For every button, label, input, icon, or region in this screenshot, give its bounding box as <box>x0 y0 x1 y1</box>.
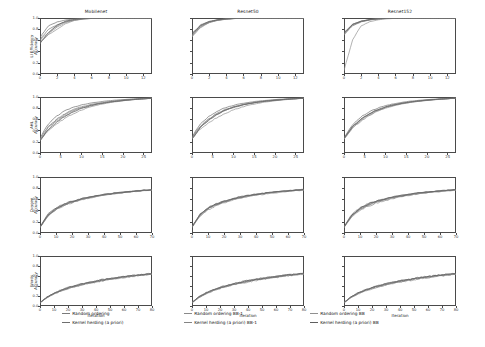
legend-label: Kernel herding (a priori) BB <box>320 320 379 325</box>
x-tick-label: 0 <box>39 308 41 312</box>
x-tick-label: 40 <box>254 235 259 239</box>
x-tick-label: 12 <box>445 76 450 80</box>
series-line <box>344 274 456 303</box>
plot-panel: 01020304050607080Iteration <box>192 256 304 306</box>
x-tick-label: 10 <box>383 155 388 159</box>
x-tick-label: 12 <box>141 76 146 80</box>
y-axis-label: Words Accuracy <box>30 261 39 301</box>
y-tick-label: 1.0 <box>33 95 39 99</box>
figure-legend: Random orderingRandom ordering BB-1Rando… <box>62 311 424 333</box>
series-canvas <box>40 97 152 153</box>
series-line <box>192 18 304 35</box>
x-tick-label: 6 <box>91 76 93 80</box>
x-tick-label: 50 <box>422 235 427 239</box>
y-tick-label: 1.0 <box>33 16 39 20</box>
x-tick-label: 6 <box>243 76 245 80</box>
series-canvas <box>344 18 456 74</box>
x-tick-label: 8 <box>260 76 262 80</box>
x-tick-label: 60 <box>426 308 431 312</box>
plot-panel: 0510152025 <box>192 97 304 153</box>
y-tick-label: 1.0 <box>33 254 39 258</box>
series-canvas <box>344 177 456 233</box>
series-line <box>40 273 152 302</box>
series-canvas <box>344 256 456 306</box>
legend-item[interactable]: Kernel herding (a priori) <box>62 320 123 325</box>
y-axis-label: Oxygen Accuracy <box>30 185 39 225</box>
x-tick-label: 15 <box>252 155 257 159</box>
x-tick-label: 25 <box>141 155 146 159</box>
legend-swatch <box>62 313 70 314</box>
legend-item[interactable]: Kernel herding (a priori) BB <box>310 320 379 325</box>
x-tick-label: 2 <box>208 76 210 80</box>
series-line <box>192 274 304 303</box>
legend-label: Random ordering BB-1 <box>194 311 243 316</box>
x-tick-label: 70 <box>302 235 307 239</box>
x-tick-label: 10 <box>52 308 57 312</box>
series-line <box>344 18 456 33</box>
legend-label: Kernel herding (a priori) <box>72 320 123 325</box>
y-tick-label: 0.0 <box>33 304 39 308</box>
x-tick-label: 4 <box>73 76 75 80</box>
y-axis-label: LI Efficiency Accuracy <box>30 26 39 66</box>
series-line <box>40 274 152 303</box>
x-tick-label: 0 <box>343 155 345 159</box>
y-tick-label: 0.0 <box>33 231 39 235</box>
legend-item[interactable]: Random ordering BB-1 <box>184 311 243 316</box>
series-canvas <box>40 18 152 74</box>
y-tick-label: 0.0 <box>33 151 39 155</box>
x-tick-label: 4 <box>225 76 227 80</box>
panel-title: Resnet152 <box>344 9 456 14</box>
series-line <box>40 18 152 40</box>
series-line <box>192 18 304 34</box>
series-line <box>344 274 456 303</box>
x-tick-label: 70 <box>440 308 445 312</box>
x-tick-label: 25 <box>445 155 450 159</box>
x-tick-label: 40 <box>406 235 411 239</box>
series-line <box>40 274 152 303</box>
series-line <box>192 18 304 33</box>
figure-root: Mobilenet0.00.20.40.60.81.0024681012LI E… <box>0 0 485 347</box>
x-tick-label: 0 <box>191 76 193 80</box>
x-tick-label: 15 <box>404 155 409 159</box>
x-tick-label: 0 <box>191 155 193 159</box>
series-line <box>344 273 456 302</box>
x-tick-label: 0 <box>39 76 41 80</box>
series-line <box>192 274 304 303</box>
x-tick-label: 6 <box>395 76 397 80</box>
legend-item[interactable]: Kernel herding (a priori) BB-1 <box>184 320 257 325</box>
x-tick-label: 30 <box>390 235 395 239</box>
x-tick-label: 8 <box>412 76 414 80</box>
x-tick-label: 10 <box>231 155 236 159</box>
legend-label: Random ordering <box>72 311 109 316</box>
panel-title: Mobilenet <box>40 9 152 14</box>
legend-swatch <box>310 322 318 323</box>
legend-item[interactable]: Random ordering BB <box>310 311 365 316</box>
series-line <box>344 274 456 303</box>
plot-panel: 0510152025 <box>344 97 456 153</box>
x-tick-label: 70 <box>454 235 459 239</box>
series-line <box>40 274 152 303</box>
x-tick-label: 5 <box>212 155 214 159</box>
x-tick-label: 0 <box>39 155 41 159</box>
x-tick-label: 10 <box>79 155 84 159</box>
series-line <box>344 18 456 71</box>
x-tick-label: 20 <box>273 155 278 159</box>
plot-panel: 010203040506070 <box>344 177 456 233</box>
x-tick-label: 20 <box>425 155 430 159</box>
panel-title: Resnet50 <box>192 9 304 14</box>
x-tick-label: 10 <box>358 235 363 239</box>
x-tick-label: 20 <box>374 235 379 239</box>
series-line <box>344 273 456 302</box>
series-line <box>192 273 304 302</box>
series-canvas <box>192 177 304 233</box>
series-line <box>40 274 152 303</box>
x-tick-label: 20 <box>222 235 227 239</box>
x-tick-label: 0 <box>343 235 345 239</box>
x-tick-label: 30 <box>86 235 91 239</box>
legend-item[interactable]: Random ordering <box>62 311 109 316</box>
series-line <box>344 18 456 33</box>
plot-panel: 0.00.20.40.60.81.0010203040506070Oxygen … <box>40 177 152 233</box>
x-tick-label: 50 <box>270 235 275 239</box>
series-canvas <box>40 177 152 233</box>
legend-swatch <box>62 322 70 323</box>
